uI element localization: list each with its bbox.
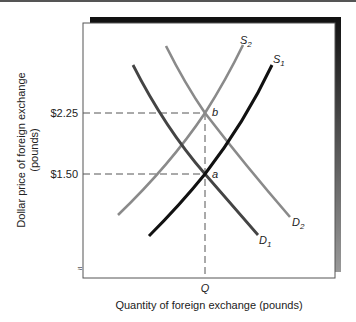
y-axis-label: Dollar price of foreign exchange (pounds…: [15, 72, 40, 227]
y-axis-label-line1: Dollar price of foreign exchange: [15, 72, 27, 227]
y-tick-150: $1.50: [50, 168, 78, 180]
y-tick-225: $2.25: [50, 107, 78, 119]
x-tick-q: Q: [201, 282, 210, 294]
foreign-exchange-chart: S2 S1 D2 D1 b a $2.25 $1.50 ≈ Q Quantity…: [0, 0, 356, 322]
equilibrium-a-label: a: [212, 168, 218, 180]
equilibrium-b-label: b: [212, 106, 218, 118]
axis-break-symbol: ≈: [78, 264, 83, 273]
x-axis-label: Quantity of foreign exchange (pounds): [115, 299, 302, 311]
plot-frame: [83, 23, 335, 278]
y-axis-label-line2: (pounds): [28, 128, 40, 171]
